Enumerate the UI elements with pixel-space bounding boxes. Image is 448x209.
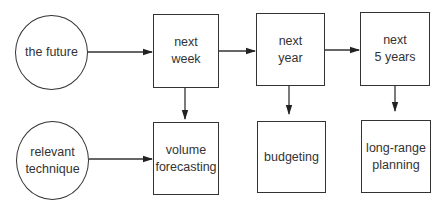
- node-label: 5 years: [375, 49, 416, 66]
- node-next-week: next week: [153, 14, 219, 88]
- node-label: week: [171, 51, 200, 68]
- node-the-future: the future: [15, 15, 88, 90]
- node-label: next: [174, 34, 198, 51]
- node-label: the future: [25, 44, 78, 61]
- node-volume-forecasting: volume forecasting: [153, 122, 219, 195]
- node-label: relevant: [30, 144, 74, 161]
- node-next-5-years: next 5 years: [360, 12, 430, 86]
- node-label: forecasting: [155, 159, 216, 176]
- node-relevant-technique: relevant technique: [16, 121, 89, 200]
- node-label: volume: [166, 142, 206, 159]
- node-long-range-planning: long-range planning: [361, 120, 431, 193]
- node-label: year: [278, 50, 302, 67]
- node-label: next: [383, 32, 407, 49]
- node-label: planning: [372, 157, 419, 174]
- node-label: technique: [25, 161, 79, 178]
- node-label: next: [279, 33, 303, 50]
- node-next-year: next year: [256, 13, 325, 86]
- node-budgeting: budgeting: [257, 121, 326, 193]
- forecasting-horizon-diagram: the future next week next year next 5 ye…: [0, 0, 448, 209]
- node-label: budgeting: [264, 149, 319, 166]
- node-label: long-range: [366, 140, 426, 157]
